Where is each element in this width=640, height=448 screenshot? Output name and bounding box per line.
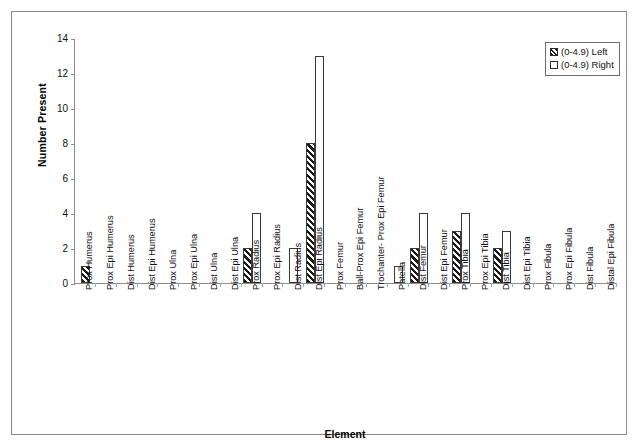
legend-item-right: (0-4.9) Right — [550, 59, 614, 72]
x-axis-tick-label: Dist Epi Tibia — [523, 236, 532, 290]
bar-group: Prox Epi Humerus — [96, 39, 117, 283]
x-axis-tick-label: Dist Epi Radius — [315, 227, 324, 290]
x-axis-tick-mark — [470, 283, 471, 287]
bar-group: Dist Epi Radius — [304, 39, 325, 283]
x-axis-tick-mark — [137, 283, 138, 287]
x-axis-tick-label: Prox Epi Ulna — [190, 234, 199, 290]
x-axis-tick-label: Dist Ulna — [210, 253, 219, 290]
x-axis-tick-mark — [408, 283, 409, 287]
bar-group-bars — [158, 39, 179, 283]
bar-group: Prox Tibia — [450, 39, 471, 283]
legend-swatch-right-icon — [550, 61, 558, 69]
x-axis-tick-mark — [387, 283, 388, 287]
x-axis-tick-label: Dist Tibia — [502, 252, 511, 290]
bar-group: Prox Humerus — [75, 39, 96, 283]
bar-group: Patella — [388, 39, 409, 283]
legend-swatch-left-icon — [550, 48, 558, 56]
x-axis-tick-mark — [199, 283, 200, 287]
x-axis-tick-label: Prox Epi Radius — [273, 224, 282, 290]
x-axis-tick-mark — [157, 283, 158, 287]
x-axis-tick-label: Dist Radius — [294, 243, 303, 290]
bar-group: Prox Epi Ulna — [179, 39, 200, 283]
y-axis-title: Number Present — [36, 83, 48, 167]
x-axis-tick-mark — [95, 283, 96, 287]
bar-group: Dist Ulna — [200, 39, 221, 283]
x-axis-tick-mark — [303, 283, 304, 287]
bar-group: Trochanter- Prox Epi Femur — [367, 39, 388, 283]
bar-group: Dist Epi Tibia — [513, 39, 534, 283]
x-axis-tick-mark — [491, 283, 492, 287]
x-axis-tick-label: Dist Fibula — [586, 247, 595, 290]
plot-area: 02468101214 Prox HumerusProx Epi Humerus… — [74, 39, 616, 284]
bar-group: Ball-Prox Epi Femur — [346, 39, 367, 283]
x-axis-tick-mark — [553, 283, 554, 287]
x-axis-tick-label: Prox Ulna — [169, 250, 178, 290]
x-axis-tick-label: Prox Fibula — [544, 244, 553, 290]
bar-group: Prox Ulna — [158, 39, 179, 283]
legend-label-right: (0-4.9) Right — [561, 59, 614, 72]
x-axis-tick-label: Dist Epi Femur — [440, 229, 449, 290]
x-axis-tick-label: Patella — [398, 262, 407, 290]
x-axis-tick-mark — [282, 283, 283, 287]
x-axis-tick-label: Prox Epi Tibia — [481, 233, 490, 290]
bar-group: Prox Epi Tibia — [471, 39, 492, 283]
x-axis-tick-label: Prox Humerus — [85, 231, 94, 290]
bar-group: Dist Epi Humerus — [138, 39, 159, 283]
x-axis-tick-label: Distal Epi Fibula — [607, 224, 616, 290]
x-axis-tick-mark — [220, 283, 221, 287]
bar-group: Prox Femur — [325, 39, 346, 283]
chart-legend: (0-4.9) Left (0-4.9) Right — [545, 42, 620, 76]
bar-group: Dist Radius — [283, 39, 304, 283]
bar-group-bars — [200, 39, 221, 283]
bar-group: Dist Epi Ulna — [221, 39, 242, 283]
bar-group: Prox Radius — [242, 39, 263, 283]
x-axis-title: Element — [74, 428, 616, 440]
x-axis-tick-label: Prox Epi Humerus — [106, 215, 115, 290]
x-axis-tick-mark — [512, 283, 513, 287]
x-axis-tick-label: Prox Tibia — [461, 249, 470, 290]
x-axis-tick-mark — [262, 283, 263, 287]
x-axis-tick-label: Prox Radius — [252, 240, 261, 290]
y-axis-tick-mark — [71, 284, 75, 285]
x-axis-tick-label: Dist Epi Humerus — [148, 219, 157, 290]
bar-group: Dist Humerus — [117, 39, 138, 283]
x-axis-tick-mark — [324, 283, 325, 287]
x-axis-tick-mark — [533, 283, 534, 287]
x-axis-tick-mark — [595, 283, 596, 287]
x-axis-tick-label: Dist Epi Ulna — [231, 237, 240, 290]
x-axis-tick-mark — [241, 283, 242, 287]
x-axis-tick-label: Prox Femur — [336, 242, 345, 290]
x-axis-tick-label: Dist Humerus — [127, 234, 136, 290]
bar-group: Dist Tibia — [492, 39, 513, 283]
bar-group: Dist Epi Femur — [429, 39, 450, 283]
x-axis-tick-mark — [449, 283, 450, 287]
chart-frame: Number Present 02468101214 Prox HumerusP… — [11, 11, 627, 435]
x-axis-tick-mark — [366, 283, 367, 287]
x-axis-tick-mark — [428, 283, 429, 287]
bar-group-bars — [450, 39, 471, 283]
x-axis-tick-mark — [116, 283, 117, 287]
bar-group: Dist Femur — [409, 39, 430, 283]
x-axis-tick-label: Dist Femur — [419, 245, 428, 290]
legend-label-left: (0-4.9) Left — [561, 46, 607, 59]
x-axis-tick-label: Trochanter- Prox Epi Femur — [377, 176, 386, 290]
x-axis-tick-label: Ball-Prox Epi Femur — [356, 208, 365, 290]
bar-group-bars — [492, 39, 513, 283]
bar-group: Prox Epi Radius — [263, 39, 284, 283]
x-axis-tick-label: Prox Epi Fibula — [565, 228, 574, 290]
bar-group-bars — [388, 39, 409, 283]
x-axis-tick-mark — [574, 283, 575, 287]
legend-item-left: (0-4.9) Left — [550, 46, 614, 59]
x-axis-tick-mark — [178, 283, 179, 287]
